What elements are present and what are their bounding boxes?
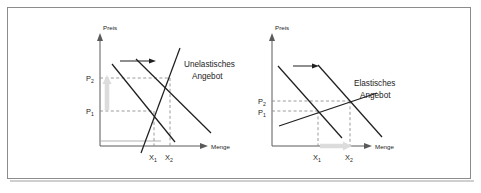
y-axis-arrowhead-icon bbox=[269, 33, 275, 41]
demand-curve-shifted bbox=[136, 59, 211, 133]
supply-annotation-line2: Angebot bbox=[192, 72, 223, 81]
supply-annotation-line2: Angebot bbox=[360, 91, 391, 100]
supply-curve-inelastic bbox=[141, 48, 180, 153]
qty-change-emphasis-arrow-icon bbox=[320, 141, 352, 150]
y-axis-arrowhead-icon bbox=[97, 33, 103, 41]
x-axis-label: Menge bbox=[375, 143, 394, 150]
x-axis-arrowhead-icon bbox=[364, 143, 372, 149]
chart-inelastic-supply: Preis Menge P2 P1 X1 X2 Unelast bbox=[8, 8, 240, 180]
price-change-emphasis-arrow-icon bbox=[102, 75, 111, 110]
supply-annotation-line1: Unelastisches bbox=[184, 60, 235, 69]
diagram-frame: Preis Menge P2 P1 X1 X2 Unelast bbox=[7, 7, 471, 179]
x-axis-label: Menge bbox=[211, 143, 230, 150]
price-tick-high: P2 bbox=[258, 97, 266, 107]
y-axis-label: Preis bbox=[103, 24, 117, 31]
qty-tick-low: X1 bbox=[149, 153, 157, 163]
chart-elastic-supply: Preis Menge P2 P1 X1 X2 Elastisches An bbox=[240, 8, 472, 180]
demand-shift-arrowhead-icon bbox=[149, 58, 156, 63]
reference-box bbox=[100, 111, 161, 141]
qty-tick-low: X1 bbox=[313, 153, 321, 163]
price-tick-low: P1 bbox=[258, 108, 266, 118]
price-tick-high: P2 bbox=[86, 74, 94, 84]
x-axis-arrowhead-icon bbox=[200, 143, 208, 149]
demand-curve-original bbox=[112, 64, 175, 142]
price-tick-low: P1 bbox=[86, 107, 94, 117]
supply-annotation-line1: Elastisches bbox=[354, 79, 395, 88]
demand-curve-original bbox=[278, 66, 342, 138]
qty-tick-high: X2 bbox=[165, 153, 173, 163]
qty-tick-high: X2 bbox=[345, 153, 353, 163]
demand-shift-arrowhead-icon bbox=[312, 63, 319, 68]
y-axis-label: Preis bbox=[275, 24, 289, 31]
